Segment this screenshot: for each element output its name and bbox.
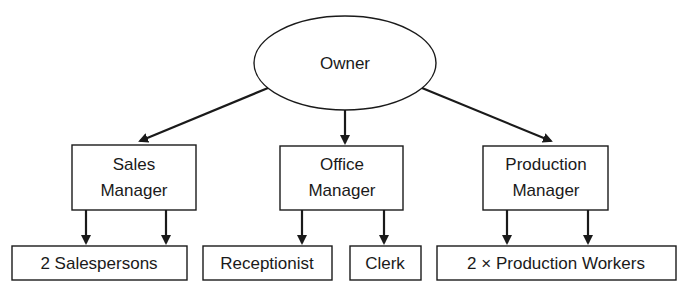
clerk-label: Clerk bbox=[365, 254, 405, 273]
node-production-manager: Production Manager bbox=[483, 146, 608, 210]
salespersons-label: 2 Salespersons bbox=[40, 254, 157, 273]
node-sales-manager: Sales Manager bbox=[72, 145, 196, 210]
org-chart: Owner Sales Manager Office Manager Produ… bbox=[0, 0, 685, 299]
sales-manager-label-line2: Manager bbox=[100, 181, 167, 200]
node-owner: Owner bbox=[254, 16, 436, 110]
production-workers-label: 2 × Production Workers bbox=[467, 254, 645, 273]
edge-owner-to-sales-manager bbox=[140, 88, 268, 141]
node-salespersons: 2 Salespersons bbox=[12, 246, 187, 280]
edge-owner-to-production-manager bbox=[422, 88, 551, 141]
node-production-workers: 2 × Production Workers bbox=[437, 246, 676, 280]
node-office-manager: Office Manager bbox=[280, 146, 403, 210]
node-clerk: Clerk bbox=[350, 246, 421, 280]
production-manager-label-line2: Manager bbox=[512, 181, 579, 200]
office-manager-label-line2: Manager bbox=[308, 181, 375, 200]
sales-manager-label-line1: Sales bbox=[113, 155, 156, 174]
owner-label: Owner bbox=[320, 54, 370, 73]
receptionist-label: Receptionist bbox=[220, 254, 314, 273]
node-receptionist: Receptionist bbox=[203, 246, 332, 280]
office-manager-label-line1: Office bbox=[320, 155, 364, 174]
production-manager-label-line1: Production bbox=[505, 155, 586, 174]
